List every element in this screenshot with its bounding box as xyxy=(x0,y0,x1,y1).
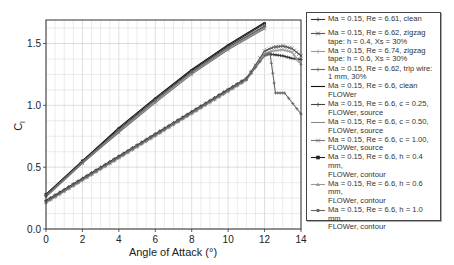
legend-label: Ma = 0.15, Re = 6.6, c = 0.50, FLOWer, s… xyxy=(328,118,429,135)
y-axis-label-main: C xyxy=(12,123,24,131)
legend-item: Ma = 0.15, Re = 6.6, clean FLOWer xyxy=(310,82,438,99)
legend-item: Ma = 0.15, Re = 6.6, h = 0.4 mm, FLOWer,… xyxy=(310,153,438,179)
chart-legend: Ma = 0.15, Re = 6.61, cleanMa = 0.15, Re… xyxy=(306,12,441,221)
axis-ticks: 024681012140.00.51.01.5 xyxy=(27,38,307,245)
legend-line-symbol-icon xyxy=(310,180,326,189)
legend-item: Ma = 0.15, Re = 6.6, c = 0.50, FLOWer, s… xyxy=(310,118,438,135)
x-axis-label: Angle of Attack (°) xyxy=(129,246,217,258)
legend-label: Ma = 0.15, Re = 6.62, zigzag tape: h = 0… xyxy=(328,29,426,46)
x-tick-label: 4 xyxy=(116,234,122,245)
legend-line-symbol-icon xyxy=(310,136,326,145)
legend-label: Ma = 0.15, Re = 6.61, clean xyxy=(328,15,422,24)
y-axis-label-sub: l xyxy=(18,121,27,123)
x-tick-label: 12 xyxy=(259,234,271,245)
legend-line-symbol-icon xyxy=(310,15,326,24)
x-tick-label: 10 xyxy=(223,234,235,245)
x-tick-label: 6 xyxy=(153,234,159,245)
legend-line-symbol-icon xyxy=(310,206,326,215)
legend-label: Ma = 0.15, Re = 6.6, c = 1.00, FLOWer, s… xyxy=(328,136,429,153)
legend-label: Ma = 0.15, Re = 6.6, h = 0.6 mm, FLOWer,… xyxy=(328,180,438,206)
legend-item: Ma = 0.15, Re = 6.61, clean xyxy=(310,15,438,24)
legend-line-symbol-icon xyxy=(310,29,326,38)
legend-label: Ma = 0.15, Re = 6.6, c = 0.25, FLOWer, s… xyxy=(328,100,429,117)
y-tick-label: 1.5 xyxy=(27,38,41,49)
legend-item: Ma = 0.15, Re = 6.6, h = 0.6 mm, FLOWer,… xyxy=(310,180,438,206)
legend-label: Ma = 0.15, Re = 6.62, trip wire: 1 mm, 3… xyxy=(328,65,432,82)
legend-label: Ma = 0.15, Re = 6.6, clean FLOWer xyxy=(328,82,418,99)
legend-item: Ma = 0.15, Re = 6.6, c = 1.00, FLOWer, s… xyxy=(310,136,438,153)
legend-item: Ma = 0.15, Re = 6.62, trip wire: 1 mm, 3… xyxy=(310,65,438,82)
legend-label: Ma = 0.15, Re = 6.6, h = 0.4 mm, FLOWer,… xyxy=(328,153,438,179)
legend-label: Ma = 0.15, Re = 6.6, h = 1.0 mm, FLOWer,… xyxy=(328,206,438,232)
legend-line-symbol-icon xyxy=(310,47,326,56)
x-tick-label: 2 xyxy=(80,234,86,245)
y-tick-label: 0.0 xyxy=(27,224,41,235)
svg-text:Cl: Cl xyxy=(12,121,27,131)
legend-item: Ma = 0.15, Re = 6.74, zigzag tape: h = 0… xyxy=(310,47,438,64)
legend-label: Ma = 0.15, Re = 6.74, zigzag tape: h = 0… xyxy=(328,47,426,64)
legend-line-symbol-icon xyxy=(310,153,326,162)
y-tick-label: 1.0 xyxy=(27,100,41,111)
x-tick-label: 0 xyxy=(43,234,49,245)
legend-item: Ma = 0.15, Re = 6.6, c = 0.25, FLOWer, s… xyxy=(310,100,438,117)
x-tick-label: 8 xyxy=(189,234,195,245)
legend-line-symbol-icon xyxy=(310,82,326,91)
legend-line-symbol-icon xyxy=(310,100,326,109)
legend-item: Ma = 0.15, Re = 6.62, zigzag tape: h = 0… xyxy=(310,29,438,46)
x-tick-label: 14 xyxy=(295,234,307,245)
legend-line-symbol-icon xyxy=(310,118,326,127)
legend-line-symbol-icon xyxy=(310,65,326,74)
y-tick-label: 0.5 xyxy=(27,162,41,173)
legend-item: Ma = 0.15, Re = 6.6, h = 1.0 mm, FLOWer,… xyxy=(310,206,438,232)
y-axis-label: Cl xyxy=(12,121,27,131)
